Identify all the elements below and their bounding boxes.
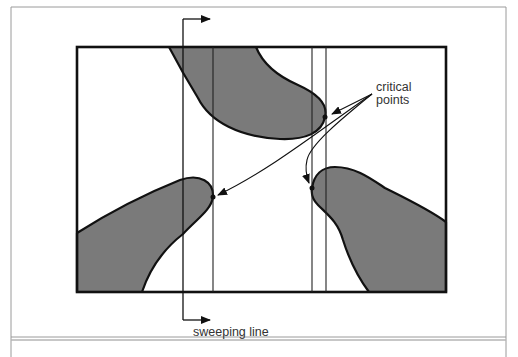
critical-points-label-line1: critical — [376, 80, 411, 94]
sweep-line-decomposition-diagram: critical points sweeping line — [0, 0, 518, 357]
top-obstacle — [169, 47, 326, 139]
right-obstacle — [312, 167, 446, 292]
critical-point-top — [323, 115, 328, 120]
critical-point-right — [310, 186, 315, 191]
critical-point-left — [211, 195, 216, 200]
critical-points-label-line2: points — [376, 93, 409, 107]
left-obstacle — [77, 178, 213, 292]
sweeping-line-label: sweeping line — [193, 325, 269, 339]
